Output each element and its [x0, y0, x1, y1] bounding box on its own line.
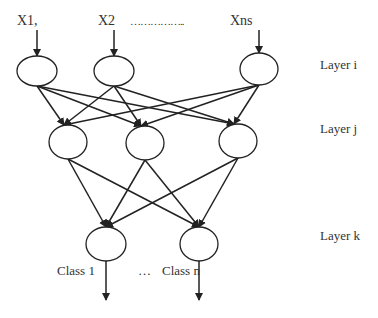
layer-i-node — [17, 56, 57, 86]
input-label-xns: Xns — [230, 14, 253, 28]
input-label-x2: X2 — [98, 14, 115, 28]
layer-j-node — [49, 125, 87, 159]
output-ellipsis: … — [138, 264, 151, 278]
layer-k-label: Layer k — [320, 229, 360, 243]
input-label-x1: X1, — [17, 14, 38, 28]
edge-j-k — [145, 160, 199, 227]
input-ellipsis: …………….. — [130, 14, 184, 28]
layer-j-node — [219, 124, 257, 158]
output-label-class-n: Class n — [162, 264, 200, 278]
layer-k-node — [86, 227, 126, 261]
layer-k-node — [180, 227, 218, 261]
layer-i-node — [94, 56, 134, 86]
layer-i-label: Layer i — [320, 58, 357, 72]
layer-i-node — [240, 53, 278, 85]
output-label-class-1: Class 1 — [57, 264, 95, 278]
nodes — [17, 53, 278, 261]
layer-j-label: Layer j — [320, 122, 357, 136]
connections — [37, 30, 259, 300]
edge-i-j — [234, 85, 259, 124]
layer-j-node — [126, 126, 164, 160]
